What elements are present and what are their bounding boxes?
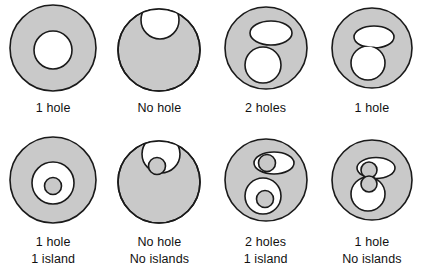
panel-8-one-hole-no-islands: 1 hole No islands: [319, 130, 425, 276]
panel-4-caption: 1 hole: [355, 100, 390, 117]
panel-6-diagram: [106, 130, 212, 230]
island-circle: [45, 178, 62, 195]
panel-7-caption-line2: 1 island: [244, 251, 288, 268]
hole-with-island-shape: [5, 132, 101, 228]
panel-5-diagram: [0, 130, 106, 230]
attached-bump-circle: [149, 158, 166, 175]
panel-2-diagram: [106, 0, 212, 96]
panel-7-diagram: [213, 130, 319, 230]
hole-circle: [34, 31, 72, 69]
panel-1-caption: 1 hole: [36, 100, 71, 117]
panel-5-caption-line1: 1 hole: [36, 235, 71, 249]
topology-figure: 1 hole No: [0, 0, 425, 276]
panel-1-one-hole: 1 hole: [0, 0, 106, 130]
panel-5-caption: 1 hole 1 island: [31, 234, 75, 268]
one-hole-shape: [5, 0, 101, 96]
panel-6-caption-line1: No hole: [137, 235, 181, 249]
panel-6-no-hole-no-islands: No hole No islands: [106, 130, 212, 276]
merged-hole-shape: [324, 0, 420, 96]
panel-4-caption-line1: 1 hole: [355, 101, 390, 115]
panel-2-caption-line1: No hole: [137, 101, 181, 115]
panel-7-caption-line1: 2 holes: [245, 235, 286, 249]
panel-6-caption: No hole No islands: [130, 234, 189, 268]
upper-attached-circle: [258, 155, 275, 172]
panel-4-diagram: [319, 0, 425, 96]
panel-7-caption: 2 holes 1 island: [244, 234, 288, 268]
notch-group: [141, 1, 179, 39]
panel-1-diagram: [0, 0, 106, 96]
panel-2-caption: No hole: [137, 100, 181, 117]
panel-5-one-hole-one-island: 1 hole 1 island: [0, 130, 106, 276]
panel-3-two-holes: 2 holes: [213, 0, 319, 130]
upper-hole-ellipse: [250, 21, 292, 45]
panel-3-caption: 2 holes: [245, 100, 286, 117]
lower-hole-seam-fill: [352, 47, 383, 78]
lower-attached-circle: [361, 176, 377, 192]
panel-6-caption-line2: No islands: [130, 251, 189, 268]
panel-4-one-hole-merged: 1 hole: [319, 0, 425, 130]
lower-hole-circle: [245, 47, 281, 83]
two-holes-shape: [218, 0, 314, 96]
notch-circle: [141, 1, 179, 39]
panel-7-two-holes-one-island: 2 holes 1 island: [213, 130, 319, 276]
upper-hole-seam-fill: [355, 27, 392, 46]
panel-8-caption: 1 hole No islands: [342, 234, 401, 268]
panel-8-caption-line1: 1 hole: [355, 235, 390, 249]
panel-8-caption-line2: No islands: [342, 251, 401, 268]
panel-grid: 1 hole No: [0, 0, 425, 276]
panel-5-caption-line2: 1 island: [31, 251, 75, 268]
panel-3-diagram: [213, 0, 319, 96]
panel-8-diagram: [319, 130, 425, 230]
notch-with-bump-shape: [111, 132, 207, 228]
no-hole-shape: [111, 0, 207, 96]
island-circle: [256, 191, 273, 208]
panel-1-caption-line1: 1 hole: [36, 101, 71, 115]
merged-hole-bumps-shape: [324, 132, 420, 228]
panel-3-caption-line1: 2 holes: [245, 101, 286, 115]
two-holes-island-shape: [218, 132, 314, 228]
panel-2-no-hole: No hole: [106, 0, 212, 130]
